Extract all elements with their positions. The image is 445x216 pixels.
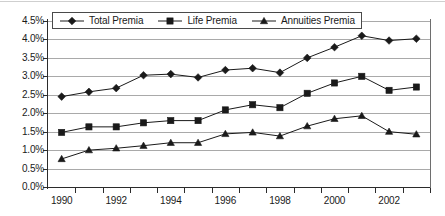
series-total-premia: [58, 32, 420, 100]
triangle-marker-icon: [251, 15, 277, 27]
legend-item-label: Life Premia: [187, 15, 236, 26]
diamond-marker-icon: [59, 15, 85, 27]
data-point-marker: [112, 84, 120, 92]
data-point-marker: [250, 102, 256, 108]
data-point-marker: [304, 90, 310, 96]
data-point-marker: [222, 66, 230, 74]
data-point-marker: [58, 93, 66, 101]
data-point-marker: [85, 88, 93, 96]
data-point-marker: [113, 124, 119, 130]
data-point-marker: [140, 71, 148, 79]
data-point-marker: [303, 54, 311, 62]
series-annuities-premia: [58, 112, 420, 161]
data-point-marker: [222, 107, 228, 113]
data-point-marker: [413, 84, 419, 90]
legend-item[interactable]: Total Premia: [59, 15, 143, 27]
data-point-marker: [86, 124, 92, 130]
legend-item-label: Annuities Premia: [281, 15, 355, 26]
data-point-marker: [277, 105, 283, 111]
series-life-premia: [59, 73, 420, 135]
data-point-marker: [194, 74, 202, 82]
data-point-marker: [331, 43, 339, 51]
data-point-marker: [385, 37, 393, 45]
series-line: [62, 116, 417, 159]
data-point-marker: [195, 118, 201, 124]
data-point-marker: [276, 69, 284, 77]
chart-container: 4.5%4.0%3.5%3.0%2.5%2.0%1.5%1.0%0.5%0.0%…: [0, 0, 445, 216]
data-point-marker: [385, 128, 392, 134]
data-series-layer: [0, 0, 445, 216]
data-point-marker: [59, 129, 65, 135]
data-point-marker: [168, 118, 174, 124]
data-point-marker: [249, 64, 257, 72]
data-point-marker: [167, 70, 175, 78]
data-point-marker: [386, 87, 392, 93]
legend-item[interactable]: Life Premia: [157, 15, 236, 27]
data-point-marker: [249, 129, 256, 135]
data-point-marker: [140, 120, 146, 126]
data-point-marker: [358, 112, 365, 118]
data-point-marker: [331, 80, 337, 86]
data-point-marker: [358, 32, 366, 40]
legend-item-label: Total Premia: [89, 15, 143, 26]
data-point-marker: [413, 35, 421, 43]
data-point-marker: [359, 73, 365, 79]
square-marker-icon: [157, 15, 183, 27]
chart-legend: Total PremiaLife PremiaAnnuities Premia: [52, 12, 362, 29]
legend-item[interactable]: Annuities Premia: [251, 15, 355, 27]
